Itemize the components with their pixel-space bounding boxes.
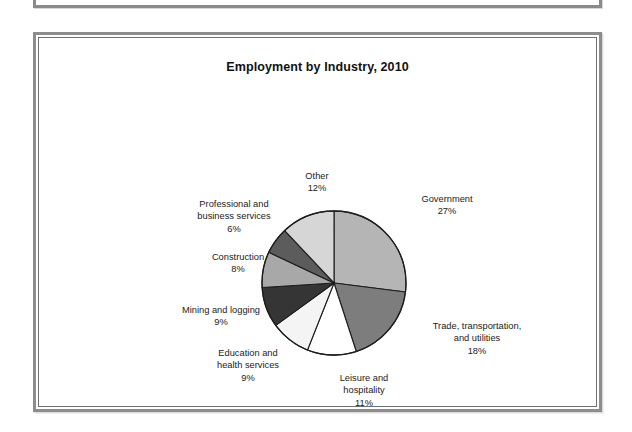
- figure-frame: Employment by Industry, 2010 Other 12% P…: [33, 32, 602, 412]
- pie-label-leisure-name-line1: Leisure and: [316, 372, 412, 384]
- pie-label-education-name-line1: Education and: [196, 347, 300, 359]
- figure-page: Employment by Industry, 2010 Other 12% P…: [0, 0, 632, 432]
- pie-label-trade-name-line2: and utilities: [411, 332, 543, 344]
- previous-figure-frame-inner: [37, 0, 598, 4]
- pie-label-mining-and-logging: Mining and logging 9%: [159, 304, 283, 329]
- pie-label-government-name: Government: [397, 193, 497, 205]
- pie-slice-government: [334, 211, 406, 292]
- pie-label-leisure-and-hospitality: Leisure and hospitality 11%: [316, 372, 412, 409]
- pie-label-professional-name-line2: business services: [176, 210, 292, 222]
- figure-frame-inner: Employment by Industry, 2010 Other 12% P…: [38, 37, 597, 407]
- pie-label-education-percent: 9%: [196, 372, 300, 384]
- pie-label-government: Government 27%: [397, 193, 497, 218]
- pie-label-other-percent: 12%: [282, 182, 352, 194]
- pie-label-education-name-line2: health services: [196, 359, 300, 371]
- pie-label-trade-transportation-and-utilities: Trade, transportation, and utilities 18%: [411, 320, 543, 357]
- pie-chart-plot-area: Other 12% Professional and business serv…: [39, 38, 596, 406]
- pie-label-professional-percent: 6%: [176, 223, 292, 235]
- pie-label-other-name: Other: [282, 170, 352, 182]
- pie-label-education-and-health-services: Education and health services 9%: [196, 347, 300, 384]
- pie-label-professional-name-line1: Professional and: [176, 198, 292, 210]
- pie-label-professional-and-business-services: Professional and business services 6%: [176, 198, 292, 235]
- pie-label-trade-percent: 18%: [411, 345, 543, 357]
- pie-label-construction: Construction 8%: [187, 251, 289, 276]
- previous-figure-frame-partial: [33, 0, 602, 8]
- pie-label-trade-name-line1: Trade, transportation,: [411, 320, 543, 332]
- pie-label-government-percent: 27%: [397, 205, 497, 217]
- pie-label-construction-percent: 8%: [187, 263, 289, 275]
- pie-label-other: Other 12%: [282, 170, 352, 195]
- pie-label-construction-name: Construction: [187, 251, 289, 263]
- pie-label-leisure-name-line2: hospitality: [316, 384, 412, 396]
- pie-label-mining-percent: 9%: [159, 316, 283, 328]
- pie-label-leisure-percent: 11%: [316, 397, 412, 409]
- pie-label-mining-name: Mining and logging: [159, 304, 283, 316]
